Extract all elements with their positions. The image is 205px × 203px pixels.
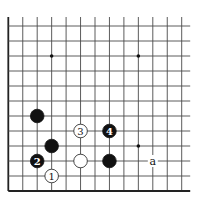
star-point-icon <box>137 144 141 148</box>
black-stone-icon <box>103 154 117 168</box>
white-stone-move-1: 1 <box>45 169 59 183</box>
black-stone-move-4: 4 <box>103 124 117 138</box>
black-stone <box>30 109 44 123</box>
star-point-icon <box>50 54 54 58</box>
marker-label: a <box>150 155 157 168</box>
white-stone-move-3: 3 <box>74 124 88 138</box>
move-number-label: 1 <box>48 171 54 182</box>
black-stone-move-2: 2 <box>30 154 44 168</box>
point-marker-a: a <box>148 155 158 168</box>
go-board-diagram: 2134 a <box>0 0 205 203</box>
black-stone-icon <box>45 139 59 153</box>
move-number-label: 3 <box>77 126 83 137</box>
black-stone <box>45 139 59 153</box>
black-stone <box>103 154 117 168</box>
white-stone-icon <box>74 154 88 168</box>
move-number-label: 2 <box>34 156 41 167</box>
black-stone-icon <box>30 109 44 123</box>
white-stone <box>74 154 88 168</box>
markers-layer: a <box>148 155 158 168</box>
star-point-icon <box>137 54 141 58</box>
move-number-label: 4 <box>106 126 113 137</box>
